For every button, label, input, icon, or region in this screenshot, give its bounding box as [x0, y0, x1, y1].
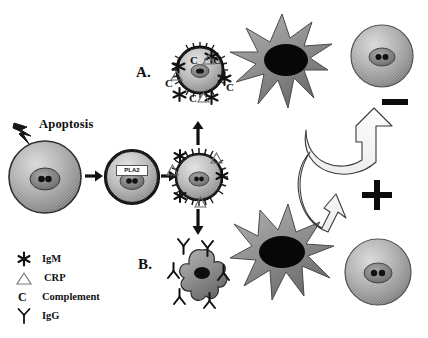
- figure-canvas: Apoptosis PLA2: [0, 0, 428, 338]
- igg-y-icon: [166, 262, 181, 279]
- igm-star-icon: [214, 168, 230, 184]
- branch-arrow-down-icon: [190, 208, 206, 236]
- complement-c-icon: C: [189, 92, 197, 104]
- crp-triangle-icon: [197, 92, 210, 103]
- igm-star-icon: [16, 251, 32, 267]
- crp-triangle-icon: [16, 272, 32, 285]
- igg-y-icon: [17, 308, 31, 324]
- panel-a-label: A.: [136, 64, 151, 81]
- legend-item-igg: IgG: [14, 307, 144, 325]
- legend-item-crp: CRP: [14, 269, 144, 287]
- igm-star-icon: [171, 86, 188, 103]
- igm-star-icon: [172, 188, 188, 204]
- legend-label-crp: CRP: [44, 272, 66, 283]
- igg-y-icon: [176, 238, 191, 255]
- legend-label-igm: IgM: [42, 253, 61, 264]
- pla2-label: PLA2: [116, 165, 148, 176]
- complement-c-icon: C: [190, 54, 198, 66]
- outcome-cell-panel-b: [342, 236, 414, 308]
- crp-triangle-icon: [166, 164, 179, 176]
- legend-label-complement: Complement: [42, 291, 100, 302]
- apoptotic-cell-pla2: [103, 148, 161, 206]
- minus-sign-outcome-a: [382, 99, 408, 105]
- igg-y-icon: [172, 288, 187, 305]
- flow-arrow-1-icon: [84, 167, 104, 185]
- crp-triangle-icon: [202, 54, 215, 65]
- legend-item-complement: C Complement: [14, 288, 144, 306]
- branch-arrow-up-icon: [190, 120, 206, 146]
- apoptosis-label: Apoptosis: [39, 117, 94, 132]
- plus-sign-outcome-b-vertical: [374, 180, 380, 210]
- crp-triangle-icon: [210, 152, 223, 164]
- complement-c-icon: C: [18, 290, 27, 305]
- igm-star-icon: [172, 148, 188, 164]
- legend-item-igm: IgM: [14, 250, 144, 268]
- crp-triangle-icon: [194, 196, 207, 208]
- outcome-cell-panel-a: [348, 22, 416, 90]
- crp-triangle-icon: [170, 70, 183, 81]
- igg-y-icon: [200, 240, 215, 257]
- igg-y-icon: [202, 292, 217, 309]
- legend-label-igg: IgG: [42, 310, 60, 321]
